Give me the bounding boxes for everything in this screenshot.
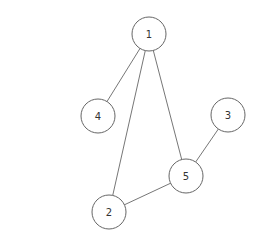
node-4: 4: [81, 99, 115, 133]
edge-1-5: [149, 34, 186, 176]
edge-1-2: [109, 34, 149, 212]
node-5: 5: [169, 159, 203, 193]
node-2: 2: [92, 195, 126, 229]
node-3: 3: [211, 98, 245, 132]
node-label: 2: [106, 207, 112, 218]
edges-layer: [98, 34, 228, 212]
node-label: 4: [95, 111, 101, 122]
node-label: 5: [183, 171, 189, 182]
graph-diagram: 12345: [0, 0, 273, 242]
node-1: 1: [132, 17, 166, 51]
node-label: 3: [225, 110, 231, 121]
nodes-layer: 12345: [81, 17, 245, 229]
node-label: 1: [146, 29, 152, 40]
